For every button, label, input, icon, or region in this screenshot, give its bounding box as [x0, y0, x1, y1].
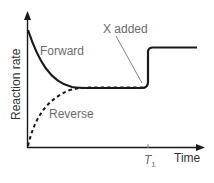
y-axis-label: Reaction rate: [9, 48, 23, 120]
reverse-label: Reverse: [49, 107, 94, 121]
reaction-rate-chart: T1 Forward Reverse X added Time Reaction…: [0, 0, 214, 183]
x-axis-arrow-icon: [196, 144, 205, 151]
forward-curve: [28, 30, 197, 88]
x-added-label: X added: [103, 22, 148, 36]
x-axis-label: Time: [174, 151, 201, 165]
x-added-pointer: [116, 36, 142, 83]
y-axis-arrow-icon: [24, 11, 31, 20]
t1-label: T1: [144, 153, 156, 169]
forward-label: Forward: [40, 44, 84, 58]
